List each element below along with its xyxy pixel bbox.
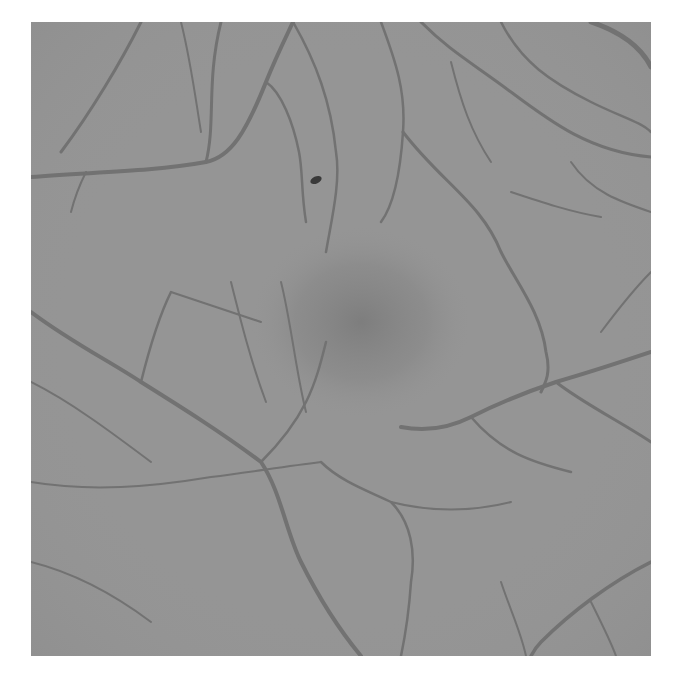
macula (251, 227, 471, 417)
retina-svg (31, 22, 651, 656)
retinal-image (31, 22, 651, 656)
